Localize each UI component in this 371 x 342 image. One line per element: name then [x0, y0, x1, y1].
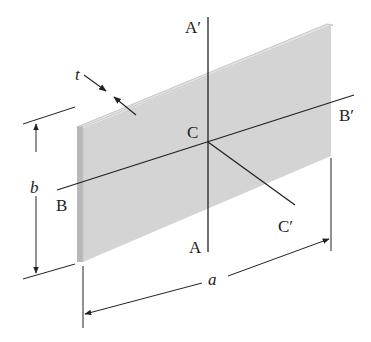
b-ext-top: [23, 107, 75, 124]
label-a: a: [208, 270, 217, 289]
plate-diagram: t b B B′ A′ A C C′ a: [0, 0, 371, 342]
thickness-arrow-outer: [84, 75, 106, 91]
label-C: C: [187, 123, 198, 142]
a-dim-arrow-left: [85, 283, 202, 314]
plate-face: [83, 26, 331, 262]
label-A-prime: A′: [185, 18, 201, 37]
a-dim-arrow-right: [228, 239, 329, 276]
label-b: b: [30, 178, 39, 197]
label-C-prime: C′: [278, 217, 293, 236]
b-ext-bottom: [23, 264, 75, 279]
label-B-prime: B′: [339, 106, 354, 125]
label-t: t: [75, 65, 81, 84]
label-A: A: [189, 238, 202, 257]
diagram-svg: t b B B′ A′ A C C′ a: [0, 0, 371, 342]
plate-left-edge: [77, 125, 83, 262]
label-B: B: [56, 196, 67, 215]
